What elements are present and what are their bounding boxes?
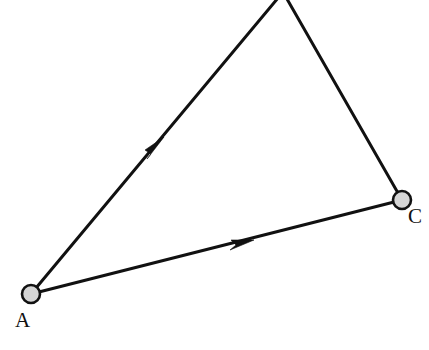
geometry-figure-canvas: A C — [0, 0, 429, 350]
vertex-label-a: A — [15, 308, 31, 332]
vertex-label-c: C — [408, 204, 422, 228]
vertex-marker-a[interactable] — [22, 285, 40, 303]
figure-vector-layer: A C — [0, 0, 429, 350]
arrowhead-icon-a-to-c — [230, 240, 254, 250]
edge-b-to-c — [283, 0, 402, 200]
edge-a-to-b — [31, 0, 283, 294]
edge-a-to-c — [31, 200, 402, 294]
